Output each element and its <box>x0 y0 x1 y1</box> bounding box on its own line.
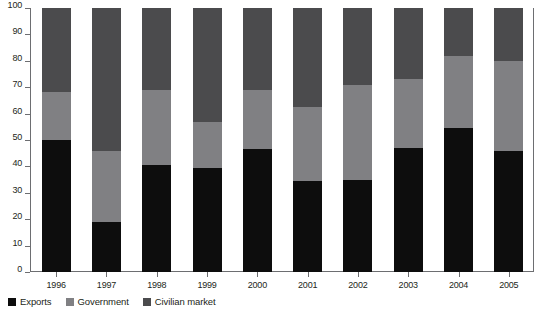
bar-segment-exports[interactable] <box>444 128 473 272</box>
y-axis: 1009080706050403020100 <box>0 0 30 272</box>
legend-swatch-icon <box>143 298 151 306</box>
x-axis-tick: 1997 <box>81 272 131 294</box>
bar-stack[interactable] <box>193 8 222 272</box>
bar-segment-exports[interactable] <box>494 151 523 272</box>
bar-segment-exports[interactable] <box>293 181 322 272</box>
bar-group <box>182 8 232 272</box>
x-axis-tick-label: 1999 <box>182 280 232 290</box>
bar-segment-civilian-market[interactable] <box>394 8 423 79</box>
bar-stack[interactable] <box>92 8 121 272</box>
x-axis-tick-label: 1997 <box>81 280 131 290</box>
x-axis-tick: 2000 <box>232 272 282 294</box>
x-axis: 1996199719981999200020012002200320042005 <box>31 272 534 294</box>
x-axis-tick: 2002 <box>333 272 383 294</box>
x-axis-tick-label: 2004 <box>433 280 483 290</box>
y-axis-tick-label: 90 <box>12 27 22 36</box>
bar-group <box>383 8 433 272</box>
bar-stack[interactable] <box>142 8 171 272</box>
x-axis-tick-label: 2001 <box>282 280 332 290</box>
bar-stack[interactable] <box>243 8 272 272</box>
y-axis-tick-label: 70 <box>12 80 22 89</box>
x-axis-tick-label: 2002 <box>333 280 383 290</box>
x-axis-tick-mark <box>509 272 510 277</box>
bar-group <box>31 8 81 272</box>
bar-group <box>333 8 383 272</box>
bar-stack[interactable] <box>343 8 372 272</box>
bar-segment-civilian-market[interactable] <box>293 8 322 107</box>
legend-item[interactable]: Government <box>66 297 129 307</box>
bar-stack[interactable] <box>42 8 71 272</box>
bar-segment-government[interactable] <box>293 107 322 181</box>
bar-segment-government[interactable] <box>92 151 121 222</box>
bar-segment-exports[interactable] <box>42 140 71 272</box>
x-axis-tick: 2003 <box>383 272 433 294</box>
x-axis-tick-label: 2000 <box>232 280 282 290</box>
legend-label: Civilian market <box>155 297 216 307</box>
x-axis-tick-mark <box>257 272 258 277</box>
bar-segment-civilian-market[interactable] <box>444 8 473 56</box>
y-axis-tick-label: 10 <box>12 239 22 248</box>
x-axis-tick-mark <box>459 272 460 277</box>
y-axis-tick-label: 0 <box>17 265 22 274</box>
legend-swatch-icon <box>66 298 74 306</box>
bar-segment-exports[interactable] <box>394 148 423 272</box>
bar-segment-government[interactable] <box>494 61 523 151</box>
chart-legend: ExportsGovernmentCivilian market <box>8 297 216 307</box>
bar-segment-civilian-market[interactable] <box>243 8 272 90</box>
bar-stack[interactable] <box>394 8 423 272</box>
bar-segment-exports[interactable] <box>343 180 372 272</box>
x-axis-tick-label: 2005 <box>484 280 534 290</box>
x-axis-tick-mark <box>157 272 158 277</box>
bar-segment-civilian-market[interactable] <box>494 8 523 61</box>
legend-item[interactable]: Exports <box>8 297 52 307</box>
bar-group <box>81 8 131 272</box>
y-axis-tick-label: 20 <box>12 212 22 221</box>
x-axis-tick-mark <box>106 272 107 277</box>
bar-segment-government[interactable] <box>444 56 473 129</box>
bar-segment-civilian-market[interactable] <box>193 8 222 122</box>
bar-stack[interactable] <box>494 8 523 272</box>
y-axis-tick-label: 100 <box>8 1 22 10</box>
bar-segment-government[interactable] <box>343 85 372 180</box>
x-axis-tick-label: 2003 <box>383 280 433 290</box>
legend-label: Government <box>78 297 129 307</box>
x-axis-tick-label: 1998 <box>132 280 182 290</box>
bar-group <box>484 8 534 272</box>
x-axis-tick-mark <box>207 272 208 277</box>
bar-segment-civilian-market[interactable] <box>142 8 171 90</box>
bar-stack[interactable] <box>444 8 473 272</box>
x-axis-tick: 1996 <box>31 272 81 294</box>
bar-segment-civilian-market[interactable] <box>343 8 372 85</box>
x-axis-tick: 2004 <box>433 272 483 294</box>
legend-item[interactable]: Civilian market <box>143 297 216 307</box>
x-axis-tick-label: 1996 <box>31 280 81 290</box>
bar-segment-exports[interactable] <box>193 168 222 272</box>
bar-segment-government[interactable] <box>42 92 71 140</box>
bar-group <box>132 8 182 272</box>
bar-segment-civilian-market[interactable] <box>92 8 121 151</box>
bar-group <box>232 8 282 272</box>
bar-stack[interactable] <box>293 8 322 272</box>
bar-segment-government[interactable] <box>394 79 423 148</box>
bar-group <box>282 8 332 272</box>
bar-segment-exports[interactable] <box>92 222 121 272</box>
bar-group <box>433 8 483 272</box>
bar-segment-government[interactable] <box>142 90 171 165</box>
stacked-bar-chart: 1009080706050403020100 19961997199819992… <box>0 0 542 321</box>
bar-segment-government[interactable] <box>243 90 272 149</box>
bar-series-container <box>31 8 534 272</box>
legend-swatch-icon <box>8 298 16 306</box>
bar-segment-exports[interactable] <box>142 165 171 272</box>
bar-segment-civilian-market[interactable] <box>42 8 71 92</box>
bar-segment-government[interactable] <box>193 122 222 168</box>
y-axis-tick-label: 40 <box>12 159 22 168</box>
x-axis-tick-mark <box>358 272 359 277</box>
x-axis-tick-mark <box>308 272 309 277</box>
bar-segment-exports[interactable] <box>243 149 272 272</box>
x-axis-tick: 2005 <box>484 272 534 294</box>
x-axis-tick: 1999 <box>182 272 232 294</box>
x-axis-tick-mark <box>56 272 57 277</box>
y-axis-tick-label: 60 <box>12 107 22 116</box>
x-axis-tick-mark <box>408 272 409 277</box>
y-axis-tick-label: 80 <box>12 54 22 63</box>
